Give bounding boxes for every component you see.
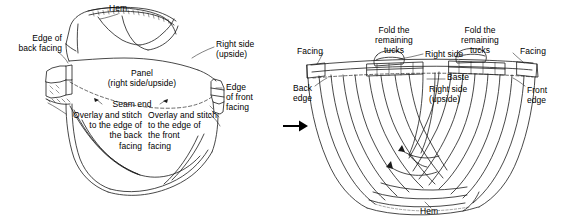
panel-drape-bottom-inner bbox=[110, 150, 208, 192]
leader-hem bbox=[100, 14, 118, 19]
fold-direction-arrowheads bbox=[386, 145, 405, 169]
front-facing-block bbox=[211, 79, 224, 104]
label-right-side-upside-left-figure: Right side (upside) bbox=[216, 39, 280, 59]
left-tube-inner-fold-a bbox=[98, 17, 140, 45]
hem-right-turn bbox=[463, 192, 479, 211]
leader-right-side-upside bbox=[192, 47, 214, 58]
label-hem-left-figure: Hem bbox=[92, 3, 144, 13]
label-facing-left: Facing bbox=[283, 46, 337, 56]
back-facing-tab bbox=[66, 65, 72, 80]
front-facing-rule-a bbox=[211, 88, 224, 90]
tuck-band-left-rule bbox=[367, 68, 423, 70]
hem-sweep-inner-b bbox=[373, 192, 467, 199]
back-facing-hatching bbox=[50, 85, 59, 94]
pleat-left-5 bbox=[369, 76, 423, 188]
front-facing-rule-b bbox=[211, 95, 224, 97]
label-fold-remaining-tucks-left: Fold the remaining tucks bbox=[361, 25, 427, 56]
facing-block-left bbox=[307, 63, 325, 78]
label-right-side-upside-right-figure: Right side (upside) bbox=[429, 84, 491, 104]
label-hem-right-figure: Hem bbox=[407, 206, 451, 216]
label-overlay-stitch-back-facing: Overlay and stitch to the edge of the ba… bbox=[56, 110, 142, 151]
panel-drape-bottom bbox=[108, 152, 212, 195]
label-overlay-stitch-front-facing: Overlay and stitch to the edge of the fr… bbox=[148, 110, 234, 151]
back-facing-stitch-ticks bbox=[47, 99, 70, 102]
label-facing-right: Facing bbox=[505, 46, 561, 56]
diagram-page: Hem Edge of back facing Panel (right sid… bbox=[0, 0, 563, 220]
label-back-edge: Back edge bbox=[293, 83, 333, 103]
label-seam-end: Seam end bbox=[105, 99, 159, 109]
label-edge-of-back-facing: Edge of back facing bbox=[0, 33, 62, 53]
label-edge-of-front-facing: Edge of front facing bbox=[226, 82, 280, 113]
left-tube-crease bbox=[77, 24, 78, 53]
label-right-side-right-figure: Right side bbox=[425, 49, 487, 59]
label-baste: Baste bbox=[447, 72, 491, 82]
label-front-edge: Front edge bbox=[527, 85, 563, 105]
fold-direction-curve-a bbox=[401, 150, 439, 158]
left-tube-inner-fold-d bbox=[148, 26, 178, 50]
back-facing-block bbox=[46, 66, 66, 83]
label-panel: Panel (right side/upside) bbox=[94, 68, 190, 88]
figure-right-tucks-basted: Facing Facing Fold the remaining tucks F… bbox=[281, 0, 563, 220]
figure-left-panel-with-facings: Hem Edge of back facing Panel (right sid… bbox=[0, 0, 281, 220]
panel-upper-left-notch bbox=[66, 44, 76, 51]
hem-sweep-inner-c bbox=[381, 183, 467, 190]
leader-front-edge bbox=[513, 78, 525, 86]
